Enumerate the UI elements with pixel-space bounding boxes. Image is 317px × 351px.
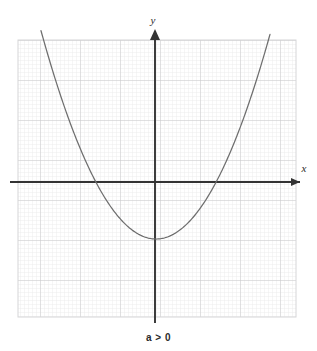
major-gridlines — [18, 40, 296, 317]
coordinate-plane: x y — [0, 0, 317, 351]
figure-caption: a > 0 — [0, 332, 317, 343]
parabola-figure: x y a > 0 — [0, 0, 317, 351]
y-axis-arrowhead — [150, 29, 160, 40]
grid-layer — [18, 40, 296, 317]
x-axis-label: x — [301, 162, 307, 174]
y-axis-label: y — [150, 14, 156, 26]
